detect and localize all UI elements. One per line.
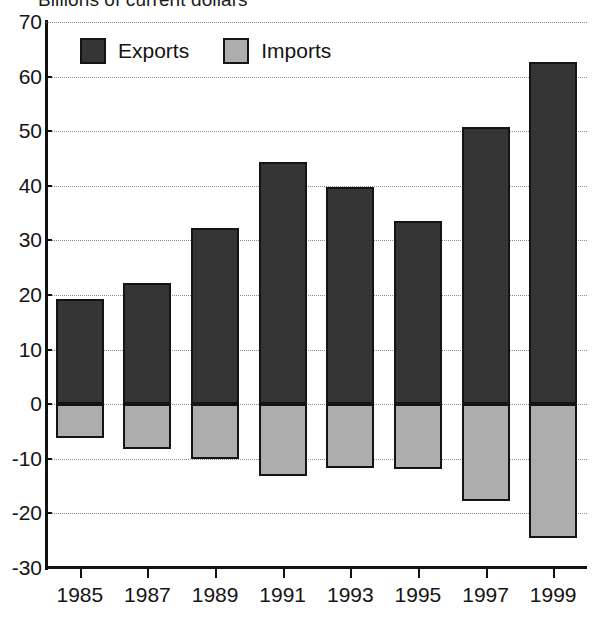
bar-imports-1999 bbox=[529, 404, 577, 538]
y-axis-tick-mark bbox=[46, 239, 52, 241]
bar-imports-1993 bbox=[326, 404, 374, 468]
gray-square-icon bbox=[223, 38, 249, 64]
legend-item-imports: Imports bbox=[223, 38, 331, 64]
bar-exports-1987 bbox=[123, 283, 171, 404]
x-axis-tick-mark bbox=[283, 569, 285, 578]
gridline bbox=[46, 22, 587, 23]
legend-label-imports: Imports bbox=[261, 39, 331, 63]
legend-label-exports: Exports bbox=[118, 39, 189, 63]
x-axis-tick-mark bbox=[215, 569, 217, 578]
y-axis-tick-label: -20 bbox=[12, 501, 42, 525]
legend-item-exports: Exports bbox=[80, 38, 189, 64]
bar-exports-1993 bbox=[326, 187, 374, 404]
x-axis-tick-label-1987: 1987 bbox=[124, 583, 171, 607]
y-axis-tick-mark bbox=[46, 294, 52, 296]
y-axis-tick-label: -10 bbox=[12, 447, 42, 471]
y-axis-tick-mark bbox=[46, 185, 52, 187]
y-axis-tick-label: 20 bbox=[19, 283, 42, 307]
x-axis-tick-label-1985: 1985 bbox=[56, 583, 103, 607]
bar-exports-1989 bbox=[191, 228, 239, 404]
bar-exports-1985 bbox=[56, 299, 104, 404]
bar-imports-1997 bbox=[462, 404, 510, 501]
x-axis-tick-mark bbox=[147, 569, 149, 578]
y-axis-tick-mark bbox=[46, 76, 52, 78]
x-axis-tick-label-1989: 1989 bbox=[192, 583, 239, 607]
x-axis-tick-mark bbox=[418, 569, 420, 578]
bar-imports-1985 bbox=[56, 404, 104, 438]
y-axis-tick-label: 0 bbox=[30, 392, 42, 416]
y-axis-tick-mark bbox=[46, 130, 52, 132]
y-axis-tick-label: 10 bbox=[19, 338, 42, 362]
y-axis-tick-label: 50 bbox=[19, 119, 42, 143]
bar-imports-1989 bbox=[191, 404, 239, 459]
x-axis-tick-mark bbox=[553, 569, 555, 578]
plot-area bbox=[46, 22, 587, 568]
bar-exports-1991 bbox=[259, 162, 307, 404]
chart-legend: Exports Imports bbox=[80, 38, 331, 64]
x-axis-tick-label-1997: 1997 bbox=[462, 583, 509, 607]
bar-chart: Billions of current dollars 706050403020… bbox=[0, 0, 595, 625]
bar-imports-1991 bbox=[259, 404, 307, 476]
x-axis-tick-label-1993: 1993 bbox=[327, 583, 374, 607]
x-axis-tick-mark bbox=[350, 569, 352, 578]
bar-imports-1987 bbox=[123, 404, 171, 449]
bar-exports-1997 bbox=[462, 127, 510, 404]
bar-imports-1995 bbox=[394, 404, 442, 468]
x-axis-tick-mark bbox=[486, 569, 488, 578]
chart-title: Billions of current dollars bbox=[38, 0, 248, 11]
y-axis-tick-mark bbox=[46, 349, 52, 351]
y-axis-tick-mark bbox=[46, 458, 52, 460]
y-axis-tick-label: 30 bbox=[19, 228, 42, 252]
y-axis-tick-label: -30 bbox=[12, 556, 42, 580]
dark-square-icon bbox=[80, 38, 106, 64]
y-axis-ticks: 706050403020100-10-20-30 bbox=[0, 0, 42, 625]
y-axis-tick-label: 60 bbox=[19, 65, 42, 89]
x-axis-tick-label-1999: 1999 bbox=[530, 583, 577, 607]
x-axis-tick-label-1995: 1995 bbox=[395, 583, 442, 607]
x-axis-tick-mark bbox=[80, 569, 82, 578]
x-axis-tick-label-1991: 1991 bbox=[259, 583, 306, 607]
gridline bbox=[46, 77, 587, 78]
bar-exports-1995 bbox=[394, 221, 442, 404]
y-axis-tick-mark bbox=[46, 512, 52, 514]
y-axis-tick-label: 40 bbox=[19, 174, 42, 198]
y-axis-tick-mark bbox=[46, 403, 52, 405]
gridline bbox=[46, 513, 587, 514]
bar-exports-1999 bbox=[529, 62, 577, 404]
y-axis-tick-label: 70 bbox=[19, 10, 42, 34]
